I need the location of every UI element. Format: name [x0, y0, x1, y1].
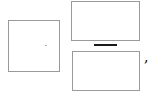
- numerator-input-slot[interactable]: [71, 1, 140, 41]
- denominator-input-slot[interactable]: [72, 51, 140, 91]
- text-cursor: [45, 45, 47, 46]
- left-input-slot[interactable]: [8, 20, 60, 72]
- comma-punctuation: ,: [144, 50, 148, 64]
- fraction-bar: [94, 44, 117, 46]
